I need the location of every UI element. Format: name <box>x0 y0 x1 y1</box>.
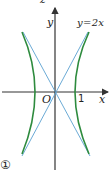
y-axis-label: y <box>47 17 53 28</box>
x-tick-1: 1 <box>78 94 84 104</box>
asymptote-label: y=2x <box>77 18 104 28</box>
hyperbola-diagram: z y y=2x O 1 x ① <box>0 0 111 172</box>
panel-marker: ① <box>0 159 11 171</box>
origin-label: O <box>42 94 51 105</box>
clipped-top-label: z <box>40 0 46 5</box>
x-axis-label: x <box>99 94 105 105</box>
